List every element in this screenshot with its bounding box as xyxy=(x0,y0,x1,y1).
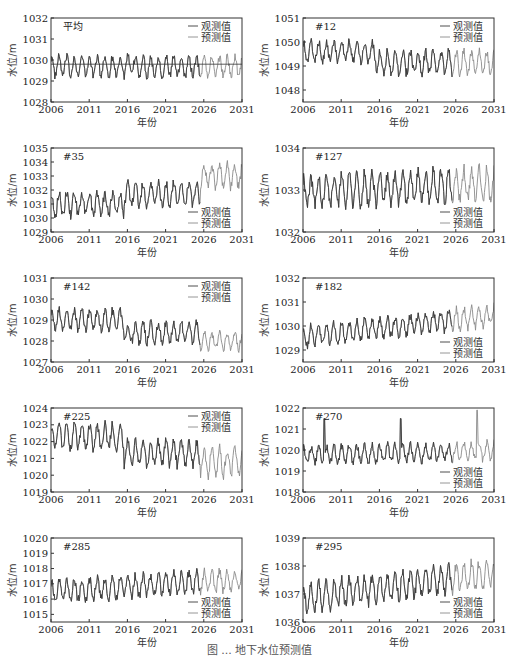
x-axis-label: 年份 xyxy=(137,376,157,388)
x-tick-label: 2031 xyxy=(481,104,506,115)
y-tick-label: 1031 xyxy=(23,199,48,210)
legend-observed-label: 观测值 xyxy=(453,466,483,478)
x-tick-label: 2021 xyxy=(153,104,178,115)
x-tick-label: 2031 xyxy=(229,364,254,375)
y-tick-label: 1035 xyxy=(23,143,48,154)
y-tick-label: 1033 xyxy=(275,185,300,196)
y-tick-label: 1018 xyxy=(23,563,48,574)
legend-predicted-label: 预测值 xyxy=(453,607,483,619)
y-tick-label: 1029 xyxy=(23,76,48,87)
y-tick-label: 1038 xyxy=(275,561,300,572)
panel-title: #127 xyxy=(315,151,342,162)
panel-title: #12 xyxy=(315,21,336,32)
x-tick-label: 2011 xyxy=(328,104,353,115)
y-axis-label: 水位/m xyxy=(6,563,18,596)
y-tick-label: 1049 xyxy=(275,61,300,72)
x-tick-label: 2016 xyxy=(367,104,392,115)
observed-series-line xyxy=(303,563,452,614)
y-tick-label: 1024 xyxy=(23,403,48,414)
x-tick-label: 2016 xyxy=(367,624,392,635)
legend-predicted-label: 预测值 xyxy=(201,31,231,43)
x-tick-label: 2016 xyxy=(367,494,392,505)
y-axis-label: 水位/m xyxy=(6,173,18,206)
panel-title: #270 xyxy=(315,411,342,422)
panel-title: #142 xyxy=(63,281,90,292)
x-tick-label: 2026 xyxy=(191,234,216,245)
legend-observed-label: 观测值 xyxy=(453,20,483,32)
observed-series-line xyxy=(51,53,200,79)
y-tick-label: 1032 xyxy=(275,227,300,238)
legend-predicted-label: 预测值 xyxy=(201,607,231,619)
panel-title: #35 xyxy=(63,151,84,162)
y-tick-label: 1033 xyxy=(23,171,48,182)
x-tick-label: 2031 xyxy=(481,364,506,375)
x-tick-label: 2011 xyxy=(328,234,353,245)
x-tick-label: 2016 xyxy=(115,364,140,375)
y-axis-label: 水位/m xyxy=(258,433,270,466)
x-tick-label: 2031 xyxy=(481,494,506,505)
x-tick-label: 2011 xyxy=(328,494,353,505)
y-tick-label: 1030 xyxy=(23,55,48,66)
y-tick-label: 1030 xyxy=(23,294,48,305)
chart-panel-平均: 2006201120162021202620311028102910301031… xyxy=(0,0,259,130)
x-tick-label: 2016 xyxy=(115,624,140,635)
y-tick-label: 1027 xyxy=(23,357,48,368)
x-tick-label: 2006 xyxy=(290,364,315,375)
x-tick-label: 2016 xyxy=(115,234,140,245)
chart-panel-well-12: 2006201120162021202620311048104910501051… xyxy=(252,0,511,130)
legend-observed-label: 观测值 xyxy=(201,280,231,292)
y-tick-label: 1032 xyxy=(23,13,48,24)
y-tick-label: 1030 xyxy=(275,321,300,332)
legend-predicted-label: 预测值 xyxy=(453,477,483,489)
y-tick-label: 1019 xyxy=(275,466,300,477)
y-tick-label: 1029 xyxy=(275,345,300,356)
y-tick-label: 1022 xyxy=(23,436,48,447)
y-tick-label: 1021 xyxy=(23,453,48,464)
y-axis-label: 水位/m xyxy=(258,173,270,206)
x-axis-label: 年份 xyxy=(389,506,409,518)
x-tick-label: 2031 xyxy=(229,104,254,115)
legend-predicted-label: 预测值 xyxy=(453,31,483,43)
panel-title: #182 xyxy=(315,281,342,292)
y-axis-label: 水位/m xyxy=(6,303,18,336)
legend-predicted-label: 预测值 xyxy=(453,217,483,229)
legend-observed-label: 观测值 xyxy=(453,596,483,608)
chart-panel-well-225: 2006201120162021202620311019102010211022… xyxy=(0,390,259,520)
x-tick-label: 2016 xyxy=(367,364,392,375)
x-tick-label: 2026 xyxy=(191,624,216,635)
x-tick-label: 2026 xyxy=(443,234,468,245)
y-tick-label: 1031 xyxy=(275,297,300,308)
x-tick-label: 2031 xyxy=(481,624,506,635)
legend-predicted-label: 预测值 xyxy=(453,347,483,359)
x-tick-label: 2026 xyxy=(191,104,216,115)
x-tick-label: 2011 xyxy=(76,624,101,635)
legend-observed-label: 观测值 xyxy=(201,410,231,422)
y-tick-label: 1019 xyxy=(23,487,48,498)
y-tick-label: 1028 xyxy=(23,336,48,347)
x-tick-label: 2021 xyxy=(405,104,430,115)
y-tick-label: 1029 xyxy=(23,315,48,326)
x-axis-label: 年份 xyxy=(137,506,157,518)
x-tick-label: 2011 xyxy=(328,624,353,635)
y-axis-label: 水位/m xyxy=(258,563,270,596)
x-tick-label: 2021 xyxy=(405,624,430,635)
x-axis-label: 年份 xyxy=(137,116,157,128)
y-tick-label: 1051 xyxy=(275,13,300,24)
y-tick-label: 1020 xyxy=(23,470,48,481)
x-tick-label: 2016 xyxy=(115,494,140,505)
y-tick-label: 1020 xyxy=(23,533,48,544)
observed-series-line xyxy=(51,307,200,347)
x-tick-label: 2011 xyxy=(76,104,101,115)
y-tick-label: 1022 xyxy=(275,403,300,414)
y-axis-label: 水位/m xyxy=(6,433,18,466)
y-tick-label: 1020 xyxy=(275,445,300,456)
x-tick-label: 2016 xyxy=(367,234,392,245)
observed-series-line xyxy=(51,568,200,602)
x-tick-label: 2021 xyxy=(153,364,178,375)
y-tick-label: 1032 xyxy=(275,273,300,284)
y-tick-label: 1017 xyxy=(23,578,48,589)
x-tick-label: 2021 xyxy=(405,494,430,505)
legend-predicted-label: 预测值 xyxy=(201,291,231,303)
x-tick-label: 2011 xyxy=(328,364,353,375)
observed-series-line xyxy=(303,310,452,349)
